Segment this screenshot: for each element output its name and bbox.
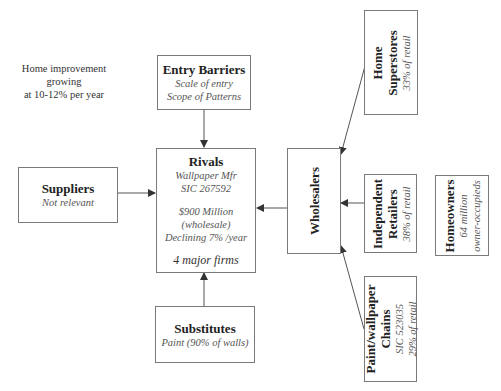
home-superstores-title: Superstores: [385, 30, 400, 95]
homeowners-count: 64 million: [457, 194, 470, 237]
homeowners-title: Homeowners: [442, 179, 457, 252]
entry-barriers-line: Scope of Patterns: [167, 90, 241, 103]
home-superstores-share: 33% of retail: [400, 35, 413, 90]
arrow-chains-to-wholesalers: [341, 246, 364, 329]
rivals-line: SIC 267592: [181, 182, 231, 195]
substitutes-line: Paint (90% of walls): [161, 336, 248, 349]
rivals-emphasis: 4 major firms: [173, 254, 238, 267]
substitutes-title: Substitutes: [174, 321, 235, 336]
suppliers-box: Suppliers Not relevant: [18, 167, 118, 223]
rivals-line: Wallpaper Mfr: [175, 169, 237, 182]
suppliers-title: Suppliers: [42, 181, 95, 196]
homeowners-type: owner-occupieds: [470, 180, 483, 252]
homeowners-box: Homeowners 64 million owner-occupieds: [435, 175, 489, 256]
arrow-superstores-to-wholesalers: [341, 66, 365, 154]
entry-barriers-title: Entry Barriers: [163, 62, 246, 77]
note-line-2: at 10-12% per year: [4, 88, 124, 101]
rivals-line: (wholesale): [182, 218, 231, 231]
market-growth-note: Home improvement growing at 10-12% per y…: [4, 62, 124, 101]
paint-chains-title: Paint/wallpaper: [363, 285, 378, 374]
independent-retailers-share: 38% of retail: [399, 186, 412, 241]
entry-barriers-line: Scale of entry: [175, 77, 233, 90]
wholesalers-box: Wholesalers: [287, 148, 341, 254]
home-superstores-box: Home Superstores 33% of retail: [364, 10, 418, 115]
substitutes-box: Substitutes Paint (90% of walls): [155, 306, 255, 363]
paint-chains-sic: SIC 523035: [393, 304, 406, 354]
entry-barriers-box: Entry Barriers Scale of entry Scope of P…: [157, 55, 251, 110]
independent-retailers-title: Retailers: [384, 189, 399, 239]
rivals-title: Rivals: [189, 154, 224, 169]
rivals-box: Rivals Wallpaper Mfr SIC 267592 $900 Mil…: [156, 148, 256, 273]
suppliers-line: Not relevant: [42, 196, 94, 209]
paint-chains-box: Paint/wallpaper Chains SIC 523035 29% of…: [364, 276, 417, 382]
wholesalers-title: Wholesalers: [307, 167, 322, 235]
note-line-1: Home improvement growing: [4, 62, 124, 88]
paint-chains-share: 29% of retail: [406, 301, 419, 356]
paint-chains-title: Chains: [378, 309, 393, 348]
rivals-line: $900 Million: [179, 205, 234, 218]
home-superstores-title: Home: [370, 46, 385, 79]
rivals-line: Declining 7% /year: [165, 231, 247, 244]
independent-retailers-box: Independent Retailers 38% of retail: [364, 174, 417, 253]
independent-retailers-title: Independent: [369, 178, 384, 248]
